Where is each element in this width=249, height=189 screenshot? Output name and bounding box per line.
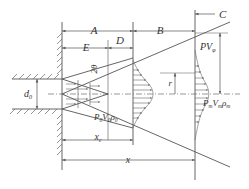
label-x: x — [125, 154, 131, 165]
label-E: E — [82, 41, 90, 53]
label-axis-state: PmVmρm — [202, 98, 230, 109]
label-A: A — [90, 24, 98, 36]
label-r: r — [168, 78, 172, 88]
velocity-profile-2 — [195, 50, 209, 140]
label-xc: xc — [93, 131, 101, 143]
label-exit-state: P0V0ρ0 — [93, 112, 118, 123]
jet-diagram: A E D B C xc x r d0 2θ P0V0ρ0 PVφ PmVmρm — [0, 0, 249, 189]
core-upper-line — [62, 79, 108, 94]
label-local-state: PVφ — [199, 41, 216, 53]
label-C: C — [219, 8, 227, 20]
label-d0: d0 — [24, 88, 32, 100]
core-lower-line — [62, 94, 108, 109]
label-D: D — [115, 34, 124, 46]
label-two-theta: 2θ — [89, 64, 99, 74]
label-B: B — [157, 24, 164, 36]
wall-hatching — [10, 33, 62, 155]
